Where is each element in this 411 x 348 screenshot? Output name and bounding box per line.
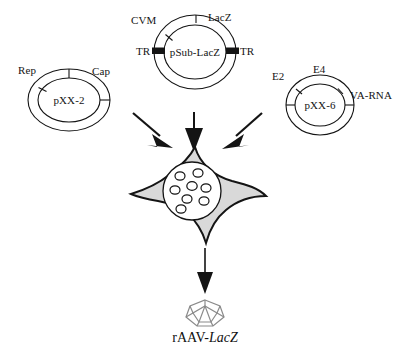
nucleus-particle — [193, 169, 203, 177]
plasmid-psublacz-label-tr-right: TR — [240, 46, 254, 57]
plasmid-pxx2-label-cap: Cap — [92, 66, 110, 77]
plasmid-pxx2-name: pXX-2 — [53, 95, 84, 106]
arrow-left — [133, 113, 173, 148]
plasmid-psublacz-label-tr-left: TR — [136, 46, 150, 57]
plasmid-pxx2-label-rep: Rep — [18, 65, 36, 76]
arrow-right-head — [222, 134, 249, 149]
plasmid-psublacz-name: pSub-LacZ — [170, 47, 220, 58]
nucleus-particle — [201, 184, 211, 192]
arrow-left-shaft — [133, 113, 160, 136]
arrow-center — [185, 112, 203, 152]
capsid-edge-c — [217, 306, 220, 313]
plasmid-psublacz-label-lacz: LacZ — [208, 12, 232, 23]
plasmid-psublacz-tr-left-block — [152, 48, 165, 55]
plasmid-psublacz-tick-cvm — [166, 35, 173, 41]
arrow-right — [222, 113, 262, 149]
arrow-right-shaft — [236, 113, 262, 136]
plasmid-pxx6-label-e4: E4 — [313, 64, 325, 75]
nucleus-particle — [170, 186, 180, 194]
capsid-inner-facet — [193, 306, 217, 322]
capsid-edge-b — [190, 306, 193, 313]
figure-caption: rAAV-LacZ — [172, 330, 237, 346]
raav-capsid-icon — [186, 300, 224, 326]
nucleus-particle — [187, 182, 197, 191]
figure-root: Rep Cap pXX-2 CVM LacZ TR TR pSub-LacZ E… — [0, 0, 411, 348]
nucleus-particle — [176, 205, 186, 213]
plasmid-psublacz-tr-right-block — [226, 48, 239, 55]
arrow-left-head — [147, 134, 173, 148]
nucleus-particle — [175, 172, 185, 180]
arrow-output-head — [197, 272, 213, 294]
figure-caption-prefix: rAAV- — [172, 330, 209, 345]
figure-caption-italic: LacZ — [209, 330, 238, 345]
plasmid-psublacz-label-cvm: CVM — [131, 15, 156, 26]
plasmid-pxx6-label-varna: VA-RNA — [350, 90, 392, 101]
transfected-cell — [131, 147, 266, 243]
arrow-output — [197, 248, 213, 294]
nucleus-particle — [182, 195, 192, 203]
plasmid-pxx6-label-e2: E2 — [272, 71, 284, 82]
plasmid-pxx6-name: pXX-6 — [304, 100, 335, 111]
nucleus-particle — [199, 197, 209, 205]
